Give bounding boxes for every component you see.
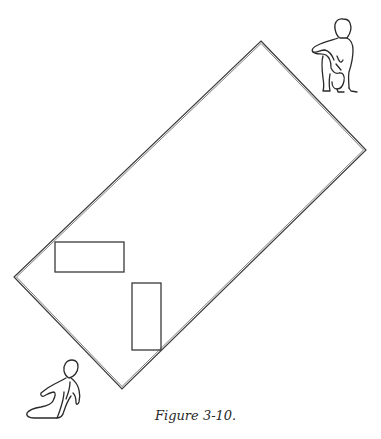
seated-figure-icon xyxy=(27,360,80,418)
figure-diagram xyxy=(0,0,381,439)
vertical-block xyxy=(132,283,161,350)
crouching-figure-icon xyxy=(312,19,357,92)
outer-rectangle xyxy=(14,41,366,389)
caption-text: Figure 3-10. xyxy=(155,408,236,423)
horizontal-block xyxy=(55,242,124,272)
